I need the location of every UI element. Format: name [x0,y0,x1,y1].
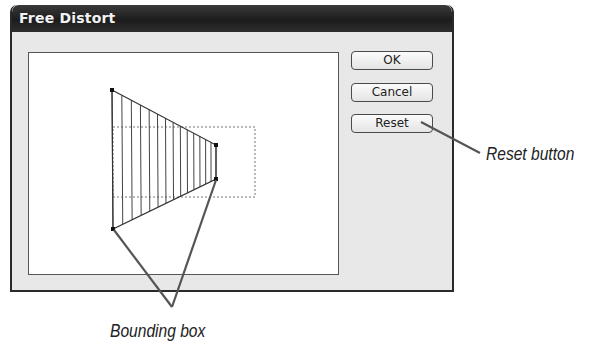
reset-button-callout: Reset button [486,143,574,165]
callout-line-bbox-right [172,180,216,307]
distortion-graphic [0,0,589,344]
callout-line-reset [421,122,480,153]
handle-top-left[interactable] [110,88,114,92]
bounding-box-callout: Bounding box [110,320,205,342]
bounding-box [113,127,255,197]
distorted-stripes [112,90,216,229]
handle-top-right[interactable] [214,143,218,147]
callout-line-bbox-left [114,230,172,307]
